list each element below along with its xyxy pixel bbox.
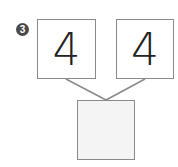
answer-box[interactable] bbox=[77, 100, 135, 160]
right-connector bbox=[106, 79, 145, 100]
left-number-box: 4 bbox=[37, 19, 96, 79]
left-connector bbox=[66, 79, 106, 100]
left-number: 4 bbox=[53, 24, 81, 75]
right-number: 4 bbox=[131, 24, 159, 75]
right-number-box: 4 bbox=[116, 19, 174, 79]
